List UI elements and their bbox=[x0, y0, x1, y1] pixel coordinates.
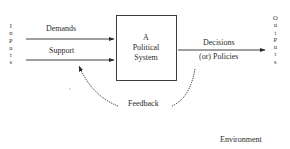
inputs-letter: s bbox=[10, 58, 13, 65]
system-line-2: Political bbox=[133, 43, 160, 53]
political-system-label: A Political System bbox=[116, 15, 176, 80]
system-line-1: A bbox=[143, 33, 149, 43]
inputs-letter: u bbox=[9, 44, 12, 51]
stray-mark bbox=[69, 88, 70, 89]
inputs-letter: I bbox=[10, 22, 12, 29]
feedback-curve-left bbox=[79, 66, 118, 106]
outputs-letter: u bbox=[274, 21, 277, 28]
demands-label: Demands bbox=[46, 25, 76, 33]
outputs-letter: s bbox=[274, 58, 277, 65]
outputs-letter: t bbox=[274, 29, 276, 36]
inputs-letter: P bbox=[9, 37, 13, 44]
outputs-letter: O bbox=[273, 14, 278, 21]
feedback-label: Feedback bbox=[128, 100, 159, 108]
inputs-letter: n bbox=[9, 29, 12, 36]
inputs-label: I n P u t s bbox=[9, 22, 13, 66]
policies-label: (or) Policies bbox=[199, 53, 238, 61]
environment-label: Environment bbox=[220, 136, 262, 144]
outputs-letter: P bbox=[274, 36, 278, 43]
support-label: Support bbox=[49, 47, 74, 55]
outputs-letter: t bbox=[274, 50, 276, 57]
system-line-3: System bbox=[134, 53, 158, 63]
inputs-letter: t bbox=[10, 51, 12, 58]
decisions-label: Decisions bbox=[203, 39, 235, 47]
outputs-label: O u t P u t s bbox=[273, 14, 278, 65]
outputs-letter: u bbox=[274, 43, 277, 50]
